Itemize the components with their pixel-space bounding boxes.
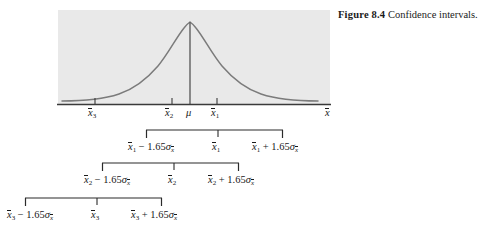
lower-sigma-sub-x2: x [127,179,130,187]
upper-coef-x2: 1.65 [227,174,245,185]
axis-label-x1-base: x [211,108,216,119]
figure-caption-number: Figure 8.4 [338,9,385,20]
lower-mean-x2: x [84,175,89,186]
lower-op-sym-x1: − [139,141,145,152]
upper-sigma-sub-x1: x [295,146,298,154]
upper-coef-x1: 1.65 [271,141,289,152]
axis-label-mu: μ [186,108,191,119]
lower-mean-x3: x [7,210,12,221]
upper-sigma-sub-x2: x [251,179,254,187]
interval-row-x1: x1 − 1.65σx x1 x1 + 1.65σx [0,128,495,158]
axis-label-xbar-right-base: x [325,108,330,119]
center-mean-x3: x [91,210,96,221]
upper-coef-x3: 1.65 [150,209,168,220]
interval-center-label-x2: x2 [168,175,176,187]
interval-upper-label-x1: x1 + 1.65σx [252,142,298,154]
axis-label-x2: x2 [165,108,173,120]
axis-label-x1: x1 [211,108,219,120]
center-mean-x1: x [212,142,217,153]
lower-op-x2: − [95,174,101,185]
lower-sigma-sub-text-x1: x [171,147,174,154]
interval-row-x2: x2 − 1.65σx x2 x2 + 1.65σx [0,161,495,191]
axis-label-x3: x3 [88,108,96,120]
upper-sigma-sub-text-x2: x [251,180,254,187]
interval-center-label-x3: x3 [91,210,99,222]
upper-op-x1: + [263,141,269,152]
axis-label-mu-base: μ [186,107,191,118]
axis-label-xbar-right: x [325,108,330,119]
interval-row-x3: x3 − 1.65σx x3 x3 + 1.65σx [0,196,495,226]
lower-mean-x1: x [128,142,133,153]
center-mean-sub-x3: 3 [96,214,100,222]
center-mean-sub-x1: 1 [217,146,221,154]
interval-center-label-x1: x1 [212,142,220,154]
lower-coef-x1: 1.65 [147,141,165,152]
axis-label-x2-base: x [165,108,170,119]
upper-sigma-sub-text-x3: x [174,215,177,222]
interval-lower-label-x3: x3 − 1.65σx [7,210,53,222]
upper-sigma-sub-x3: x [174,214,177,222]
upper-sigma-sub-text-x1: x [295,147,298,154]
upper-op-x2: + [219,174,225,185]
lower-sigma-sub-text-x3: x [50,215,53,222]
upper-mean-x1: x [252,142,257,153]
axis-label-x1-sub: 1 [216,112,220,120]
upper-mean-x2: x [208,175,213,186]
interval-bracket-x3 [0,196,495,212]
axis-label-x3-base: x [88,108,93,119]
lower-sigma-sub-x1: x [171,146,174,154]
upper-op-x3: + [142,209,148,220]
lower-coef-x3: 1.65 [26,209,44,220]
center-mean-sub-x2: 2 [173,179,177,187]
interval-upper-label-x2: x2 + 1.65σx [208,175,254,187]
figure-container: x3 x2 μ x1 x Figure 8.4 Confidence inter… [0,0,495,236]
figure-caption: Figure 8.4 Confidence intervals. [338,9,478,20]
interval-lower-label-x1: x1 − 1.65σx [128,142,174,154]
center-mean-x2: x [168,175,173,186]
lower-sigma-sub-x3: x [50,214,53,222]
lower-op-x3: − [18,209,24,220]
interval-lower-label-x2: x2 − 1.65σx [84,175,130,187]
axis-label-x3-sub: 3 [93,112,97,120]
interval-bracket-x1 [0,128,495,144]
figure-caption-text: Confidence intervals. [388,9,478,20]
upper-mean-x3: x [131,210,136,221]
interval-upper-label-x3: x3 + 1.65σx [131,210,177,222]
lower-coef-x2: 1.65 [103,174,121,185]
axis-label-x2-sub: 2 [170,112,174,120]
lower-sigma-sub-text-x2: x [127,180,130,187]
